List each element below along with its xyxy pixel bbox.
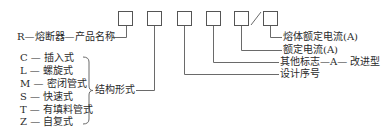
dash: —	[31, 52, 41, 63]
code-box-type	[118, 11, 133, 26]
product-name: 熔断器	[35, 31, 65, 42]
structure-name: 有填料管式	[43, 104, 93, 115]
structure-code: L	[20, 65, 27, 76]
dash: —	[30, 91, 40, 102]
other-mark-meaning: 改进型	[350, 56, 380, 67]
dash: —	[65, 31, 75, 42]
structure-item: S — 快速式	[20, 91, 73, 103]
structure-code: S	[20, 91, 27, 102]
dash: —	[25, 31, 35, 42]
code-box-rated-current	[234, 11, 249, 26]
structure-code: T	[20, 104, 27, 115]
dash: —	[30, 116, 40, 127]
fuse-model-naming-diagram: R—熔断器—产品名称 C — 插入式 L — 螺旋式 M — 密闭管式 S — …	[0, 0, 389, 134]
structure-item: T — 有填料管式	[20, 104, 93, 116]
other-mark-row: 其他标志—A— 改进型	[280, 56, 380, 68]
other-mark-code: A	[330, 56, 337, 67]
structure-item: C — 插入式	[20, 52, 74, 64]
structure-item: M — 密闭管式	[20, 78, 87, 90]
structure-name: 螺旋式	[43, 65, 73, 76]
product-row: R—熔断器—产品名称	[17, 31, 115, 43]
code-box-structure	[147, 11, 162, 26]
structure-item: Z — 自复式	[20, 116, 73, 128]
structure-name: 插入式	[44, 52, 74, 63]
structure-name: 密闭管式	[47, 78, 87, 89]
structure-name: 自复式	[43, 116, 73, 127]
design-number-label: 设计序号	[280, 68, 320, 80]
product-code: R	[17, 31, 25, 42]
code-box-fuse-rated-current	[263, 11, 278, 26]
rated-current-label: 额定电流(A)	[283, 44, 338, 56]
structure-label: 结构形式	[95, 84, 135, 96]
structure-code: C	[20, 52, 28, 63]
product-meaning: 产品名称	[75, 31, 115, 42]
structure-item: L — 螺旋式	[20, 65, 73, 77]
dash: —	[33, 78, 43, 89]
other-mark-label: 其他标志	[280, 56, 320, 67]
structure-code: M	[20, 78, 30, 89]
code-box-other-mark	[206, 11, 221, 26]
structure-name: 快速式	[43, 91, 73, 102]
dash: —	[30, 104, 40, 115]
code-box-design-number	[177, 11, 192, 26]
structure-code: Z	[20, 116, 27, 127]
fuse-rated-current-label: 熔体额定电流(A)	[283, 31, 358, 43]
dash: —	[30, 65, 40, 76]
